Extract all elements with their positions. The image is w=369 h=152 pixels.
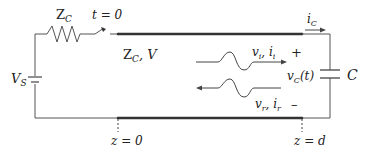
line-params-label: ZC, V	[123, 47, 158, 64]
circuit-diagram: ZC t = 0 ZC, V VS vi, ii vr, ir iC + vC(…	[0, 0, 369, 152]
incident-wave-label: vi, ii	[252, 45, 276, 61]
resistor-icon	[47, 26, 95, 42]
reflected-wave-icon	[202, 79, 281, 97]
current-arrow-icon	[305, 28, 326, 33]
source-voltage-label: VS	[11, 71, 27, 88]
source-impedance-label: ZC	[56, 7, 72, 24]
capacitor-icon	[320, 70, 340, 78]
incident-arrow-icon	[281, 60, 287, 65]
cap-current-label: iC	[307, 12, 317, 28]
minus-sign: –	[291, 97, 298, 112]
capacitor-label: C	[347, 67, 358, 83]
position-start-label: z = 0	[110, 134, 143, 148]
switch-time-label: t = 0	[92, 8, 123, 22]
reflected-arrow-icon	[196, 86, 202, 91]
position-end-label: z = d	[293, 134, 326, 148]
reflected-wave-label: vr, ir	[255, 97, 282, 113]
battery-icon	[28, 77, 42, 82]
plus-sign: +	[291, 45, 302, 60]
top-wire	[35, 26, 118, 42]
cap-voltage-label: vC(t)	[287, 69, 314, 85]
